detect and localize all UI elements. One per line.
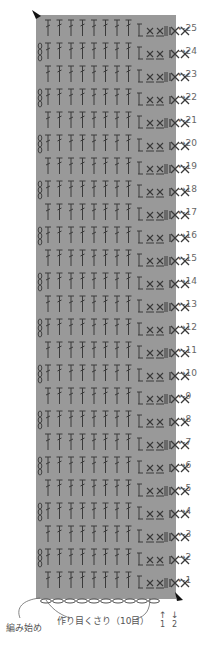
row-number-10: →10 (178, 368, 197, 378)
chart-row-23 (36, 63, 176, 86)
chart-row-24 (36, 40, 176, 63)
chart-row-11 (36, 339, 176, 362)
row-stitch-symbols (36, 364, 196, 384)
row-stitch-symbols (36, 479, 196, 499)
row-stitch-symbols (36, 456, 196, 476)
row-number-5: ←5 (178, 483, 191, 493)
row-stitch-symbols (36, 180, 196, 200)
row-number-12: →12 (178, 322, 197, 332)
row-number-19: ←19 (178, 161, 197, 171)
row2-direction-number: 2 (172, 620, 177, 629)
crochet-chart (36, 15, 176, 599)
start-label: 編み始め (6, 621, 42, 634)
row1-direction-number: 1 (160, 620, 165, 629)
row-stitch-symbols (36, 548, 196, 568)
row-stitch-symbols (36, 502, 196, 522)
row-stitch-symbols (36, 571, 196, 591)
row-number-3: ←3 (178, 529, 191, 539)
row-number-1: ←1 (178, 575, 191, 585)
row-number-16: →16 (178, 230, 197, 240)
chart-row-20 (36, 132, 176, 155)
row-stitch-symbols (36, 295, 196, 315)
chart-row-2 (36, 546, 176, 569)
row-number-22: →22 (178, 92, 197, 102)
chart-row-19 (36, 155, 176, 178)
row-number-11: ←11 (178, 345, 197, 355)
row-stitch-symbols (36, 341, 196, 361)
row-stitch-symbols (36, 88, 196, 108)
row-stitch-symbols (36, 42, 196, 62)
row2-direction-arrow: ↓ (171, 610, 179, 620)
row-number-15: ←15 (178, 253, 197, 263)
chart-row-3 (36, 523, 176, 546)
row-stitch-symbols (36, 111, 196, 131)
chart-row-22 (36, 86, 176, 109)
row-number-6: →6 (178, 460, 191, 470)
row-number-23: ←23 (178, 69, 197, 79)
row-number-17: ←17 (178, 207, 197, 217)
chart-row-15 (36, 247, 176, 270)
row-stitch-symbols (36, 433, 196, 453)
chart-row-7 (36, 431, 176, 454)
chart-row-18 (36, 178, 176, 201)
row-stitch-symbols (36, 249, 196, 269)
chart-row-5 (36, 477, 176, 500)
row-number-7: ←7 (178, 437, 191, 447)
row-number-4: →4 (178, 506, 191, 516)
end-marker-icon (32, 10, 42, 20)
row-stitch-symbols (36, 410, 196, 430)
chart-row-25 (36, 17, 176, 40)
chart-row-4 (36, 500, 176, 523)
row-number-21: ←21 (178, 115, 197, 125)
row-stitch-symbols (36, 65, 196, 85)
chart-row-16 (36, 224, 176, 247)
row-number-18: →18 (178, 184, 197, 194)
chart-row-10 (36, 362, 176, 385)
row-number-9: ←9 (178, 391, 191, 401)
row-stitch-symbols (36, 525, 196, 545)
chart-row-13 (36, 293, 176, 316)
row-stitch-symbols (36, 19, 196, 39)
row-number-8: →8 (178, 414, 191, 424)
row-number-25: ←25 (178, 23, 197, 33)
row-stitch-symbols (36, 318, 196, 338)
row-stitch-symbols (36, 203, 196, 223)
row-number-2: →2 (178, 552, 191, 562)
row1-direction-arrow: ↑ (159, 610, 167, 620)
row-stitch-symbols (36, 226, 196, 246)
row-number-14: →14 (178, 276, 197, 286)
row-number-13: ←13 (178, 299, 197, 309)
chart-row-1 (36, 569, 176, 592)
chart-row-6 (36, 454, 176, 477)
row-number-24: →24 (178, 46, 197, 56)
row-stitch-symbols (36, 157, 196, 177)
chart-row-12 (36, 316, 176, 339)
row-number-20: →20 (178, 138, 197, 148)
row-stitch-symbols (36, 134, 196, 154)
row-stitch-symbols (36, 272, 196, 292)
row-stitch-symbols (36, 387, 196, 407)
foundation-chain-label: 作り目くさり（10目） (57, 614, 149, 627)
chart-row-9 (36, 385, 176, 408)
chart-row-8 (36, 408, 176, 431)
chart-row-14 (36, 270, 176, 293)
chart-row-17 (36, 201, 176, 224)
chart-row-21 (36, 109, 176, 132)
